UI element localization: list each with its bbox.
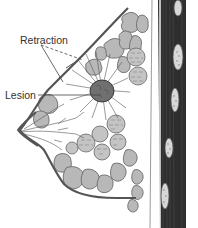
lesion-label: Lesion xyxy=(5,90,36,101)
breast-anatomy-diagram: Retraction Lesion xyxy=(0,0,198,228)
retraction-label: Retraction xyxy=(20,35,68,46)
lesion-mass xyxy=(90,80,114,102)
